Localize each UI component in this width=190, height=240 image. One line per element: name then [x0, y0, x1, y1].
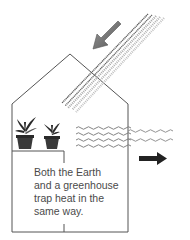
caption-line-2: and a greenhouse — [34, 179, 130, 192]
outgoing-heat-arrow — [139, 152, 167, 165]
plant-leaves-icon — [44, 123, 60, 136]
incoming-sunlight-arrow — [93, 21, 121, 49]
potted-plant-large — [15, 117, 37, 149]
caption-line-4: same way. — [34, 205, 130, 218]
escaping-heat-waves — [128, 130, 173, 142]
diagram-caption: Both the Earth and a greenhouse trap hea… — [34, 166, 130, 218]
caption-line-3: trap heat in the — [34, 192, 130, 205]
plant-leaves-icon — [15, 117, 37, 135]
pot-icon — [17, 137, 33, 149]
potted-plant-small — [44, 123, 60, 149]
pot-icon — [45, 138, 59, 149]
shelf — [12, 151, 64, 163]
caption-line-1: Both the Earth — [34, 166, 130, 179]
trapped-heat-waves — [76, 127, 131, 148]
